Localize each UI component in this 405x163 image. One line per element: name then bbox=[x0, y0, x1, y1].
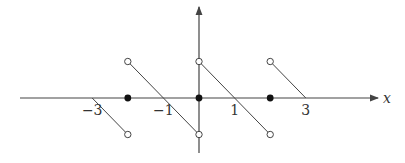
x-tick-label: −1 bbox=[153, 102, 174, 118]
filled-point bbox=[267, 95, 274, 102]
filled-point bbox=[124, 95, 131, 102]
x-axis-label: x bbox=[383, 90, 391, 106]
x-tick-label: −3 bbox=[82, 102, 103, 118]
axes: x bbox=[20, 7, 391, 153]
tick-labels: −3−113 bbox=[82, 102, 310, 118]
open-point bbox=[125, 58, 131, 64]
open-point bbox=[196, 131, 202, 137]
x-tick-label: 3 bbox=[301, 102, 310, 118]
open-point bbox=[125, 131, 131, 137]
open-point bbox=[267, 131, 273, 137]
x-tick-label: 1 bbox=[230, 102, 239, 118]
function-graph: x −3−113 bbox=[0, 0, 405, 163]
filled-point bbox=[196, 95, 203, 102]
open-point bbox=[267, 58, 273, 64]
graph-segment bbox=[270, 62, 306, 99]
open-point bbox=[196, 58, 202, 64]
